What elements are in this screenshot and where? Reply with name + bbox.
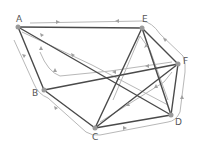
node-E [140, 26, 145, 31]
node-label-D: D [175, 117, 182, 127]
edge-C-E [95, 28, 142, 128]
edge-F-D [171, 64, 178, 115]
node-C [93, 126, 98, 131]
arrow-icon [180, 95, 184, 99]
route-arrows [22, 19, 184, 130]
node-F [176, 62, 181, 67]
arrow-icon [56, 20, 60, 24]
edge-B-C [44, 90, 95, 128]
node-A [16, 25, 21, 30]
node-B [42, 88, 47, 93]
arrow-icon [22, 54, 26, 58]
node-label-B: B [32, 88, 38, 98]
arrow-icon [123, 126, 127, 130]
node-D [169, 113, 174, 118]
route-inner-1 [22, 32, 168, 105]
node-label-C: C [92, 132, 98, 142]
node-label-A: A [16, 14, 23, 24]
edge-C-D [95, 115, 171, 128]
arrow-icon [115, 19, 119, 23]
node-label-E: E [142, 14, 148, 24]
node-label-F: F [183, 56, 188, 66]
arrow-icon [53, 68, 57, 72]
arrow-icon [40, 33, 44, 37]
graph-diagram: ABCDEF [0, 0, 199, 149]
graph-edges [18, 27, 178, 128]
arrow-icon [39, 46, 43, 50]
arrow-icon [145, 64, 149, 68]
edge-A-E [18, 27, 142, 28]
edge-A-D [18, 27, 171, 115]
